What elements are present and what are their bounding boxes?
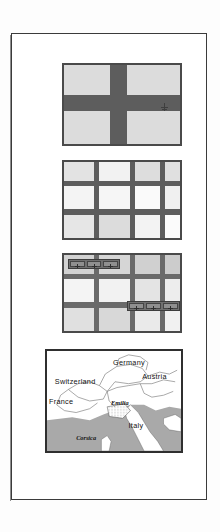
grid-cell [135, 162, 161, 181]
grid-cell [64, 186, 94, 209]
figure-3-grid-with-toolbars [62, 253, 182, 333]
map-label-austria: Austria [142, 372, 167, 381]
grid-cell [64, 65, 110, 95]
map-label-corsica: Corsica [76, 434, 96, 441]
figure-4-map: Germany Austria Switzerland France Italy… [45, 349, 183, 453]
map-marker-icon [161, 103, 168, 111]
map-svg: Germany Austria Switzerland France Italy… [47, 351, 181, 451]
grid-cell [135, 186, 161, 209]
grid-cell [99, 279, 130, 302]
grid-cell [99, 308, 130, 331]
grid-cell [165, 255, 180, 274]
grid-cell [165, 215, 180, 238]
document-page: Germany Austria Switzerland France Italy… [0, 0, 220, 532]
grid-cell [127, 111, 180, 144]
grid-vertical-bar [110, 65, 126, 95]
grid-cell [64, 111, 110, 144]
toolbar-mid-right[interactable] [127, 301, 180, 311]
toolbar-cell-plus-marker-icon[interactable] [103, 261, 118, 267]
grid-cell [127, 65, 180, 95]
grid-cell [64, 279, 94, 302]
grid-horizontal-bar [127, 95, 180, 111]
map-label-emilia: Emilia [110, 399, 129, 406]
grid-cell [99, 215, 130, 238]
figure-2-shaded-grid [62, 160, 182, 240]
grid-cell [64, 162, 94, 181]
toolbar-cell-plus-marker-icon[interactable] [70, 261, 85, 267]
map-label-switzerland: Switzerland [55, 377, 96, 386]
toolbar-cell-plus-marker-icon[interactable] [163, 303, 178, 309]
grid-cell [99, 162, 130, 181]
grid-cell [165, 308, 180, 331]
toolbar-cell-plus-marker-icon[interactable] [146, 303, 161, 309]
grid-cell [165, 162, 180, 181]
grid-cell [135, 279, 161, 302]
grid-cell [165, 279, 180, 302]
map-label-france: France [49, 397, 73, 406]
map-label-germany: Germany [113, 358, 145, 367]
grid-vertical-bar [110, 111, 126, 144]
map-label-italy: Italy [129, 421, 144, 430]
grid-cell [135, 215, 161, 238]
grid-intersection [110, 95, 126, 111]
figure-1-cross-grid [62, 63, 182, 146]
toolbar-cell-plus-marker-icon[interactable] [87, 261, 102, 267]
grid-cell [135, 308, 161, 331]
grid-cell [64, 215, 94, 238]
grid-cell [64, 308, 94, 331]
grid-cell [99, 186, 130, 209]
grid-cell [165, 186, 180, 209]
toolbar-cell-plus-marker-icon[interactable] [129, 303, 144, 309]
grid-horizontal-bar [64, 95, 110, 111]
grid-cell [135, 255, 161, 274]
toolbar-top-left[interactable] [68, 259, 120, 269]
